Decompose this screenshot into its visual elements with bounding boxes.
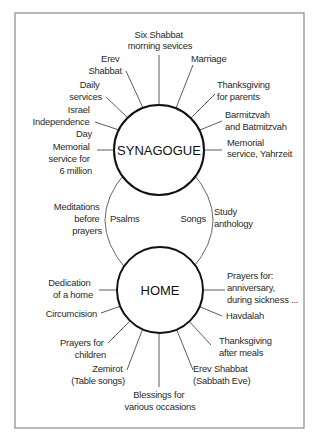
label-circumcision: Circumcision <box>46 308 97 319</box>
synagogue-hub-label: SYNAGOGUE <box>117 143 201 158</box>
label-marriage: Marriage <box>191 53 226 64</box>
home-hub-label: HOME <box>141 283 180 298</box>
label-meditations: Meditations before prayers <box>54 201 103 236</box>
label-daily-services: Daily services <box>69 79 102 102</box>
label-havdalah: Havdalah <box>226 310 264 321</box>
label-dedication-home: Dedication of a home <box>48 277 93 300</box>
label-thanksgiving-parents: Thanksgiving for parents <box>217 79 272 102</box>
synagogue-home-diagram: SYNAGOGUE HOME Six Shabbat morning sevic… <box>0 0 317 435</box>
label-israel-independence: Israel Independence Day <box>33 104 93 139</box>
label-memorial-yahrzeit: Memorial service, Yahrzeit <box>227 137 293 159</box>
label-study-anthology: Study anthology <box>214 206 253 229</box>
label-memorial-6-million: Memorial service for 6 million <box>49 141 92 176</box>
label-thanksgiving-meals: Thanksgiving after meals <box>219 335 274 358</box>
label-barmitzvah: Barmitzvah and Batmitzvah <box>225 109 287 132</box>
label-prayers-anniversary: Prayers for: anniversary, during sicknes… <box>227 270 298 305</box>
label-blessings: Blessings for various occasions <box>124 389 196 412</box>
label-zemirot: Zemirot (Table songs) <box>71 363 125 386</box>
label-erev-shabbat-syn: Erev Shabbat <box>88 53 122 76</box>
diagram-frame <box>15 13 304 428</box>
label-psalms: Psalms <box>110 213 140 224</box>
label-prayers-children: Prayers for children <box>60 337 106 360</box>
label-songs: Songs <box>180 213 206 224</box>
label-six-shabbat: Six Shabbat morning sevices <box>128 29 193 51</box>
label-erev-shabbat-home: Erev Shabbat (Sabbath Eve) <box>193 363 250 386</box>
